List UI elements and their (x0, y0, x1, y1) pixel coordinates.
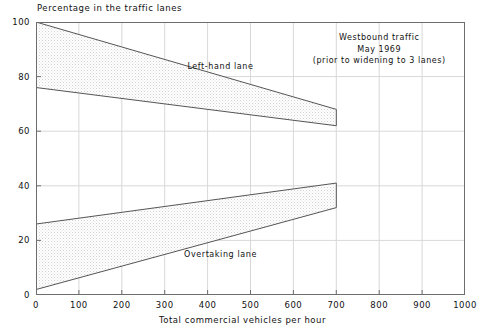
y-tick-80: 80 (0, 72, 30, 82)
left-hand-lane-label: Left-hand lane (187, 61, 253, 70)
overtaking-lane-label: Overtaking lane (184, 250, 257, 259)
y-tick-100: 100 (0, 17, 30, 27)
y-tick-40: 40 (0, 181, 30, 191)
x-tick-400: 400 (199, 300, 217, 310)
note-line-1: Westbound traffic (313, 32, 446, 44)
x-tick-500: 500 (242, 300, 260, 310)
x-tick-600: 600 (285, 300, 303, 310)
x-tick-200: 200 (113, 300, 131, 310)
x-tick-900: 900 (413, 300, 431, 310)
y-tick-60: 60 (0, 126, 30, 136)
note-line-3: (prior to widening to 3 lanes) (313, 55, 446, 67)
note-line-2: May 1969 (313, 44, 446, 56)
chart-note: Westbound traffic May 1969 (prior to wid… (313, 32, 446, 67)
x-tick-1000: 1000 (453, 300, 477, 310)
x-tick-300: 300 (156, 300, 174, 310)
chart-figure: Percentage in the traffic lanes 02040608… (0, 0, 485, 335)
x-tick-700: 700 (327, 300, 345, 310)
x-tick-0: 0 (33, 300, 39, 310)
x-axis-title: Total commercial vehicles per hour (0, 315, 485, 325)
x-tick-100: 100 (70, 300, 88, 310)
y-tick-0: 0 (0, 290, 30, 300)
y-axis-title: Percentage in the traffic lanes (37, 3, 182, 13)
y-tick-20: 20 (0, 235, 30, 245)
x-tick-800: 800 (370, 300, 388, 310)
